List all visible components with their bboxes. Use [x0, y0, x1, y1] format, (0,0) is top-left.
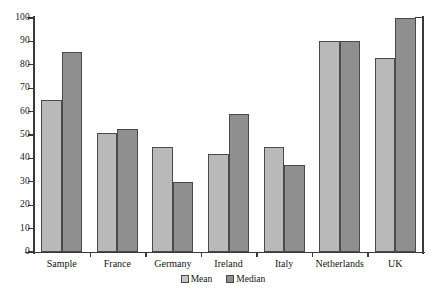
bar-france-median	[117, 129, 138, 252]
y-axis-tick-label: 60	[20, 107, 30, 117]
y-axis-tick-label: 100	[15, 13, 30, 23]
x-axis-tick	[145, 252, 146, 257]
bar-sample-mean	[41, 100, 62, 252]
x-axis-label-sample: Sample	[34, 258, 90, 270]
x-axis-label-france: France	[90, 258, 146, 270]
legend-item-median[interactable]: Median	[226, 274, 265, 284]
bar-ireland-median	[229, 114, 250, 252]
bar-germany-mean	[152, 147, 173, 252]
bar-france-mean	[97, 133, 118, 252]
x-axis-tick	[201, 252, 202, 257]
bar-sample-median	[62, 52, 83, 252]
y-axis-tick-label: 30	[20, 177, 30, 187]
y-axis-tick-label: 70	[20, 83, 30, 93]
x-axis-tick	[367, 252, 368, 257]
legend-label: Mean	[191, 274, 213, 284]
x-axis-tick	[90, 252, 91, 257]
bar-uk-mean	[375, 58, 396, 252]
bar-uk-median	[395, 18, 416, 252]
bar-italy-mean	[264, 147, 285, 252]
x-axis-label-netherlands: Netherlands	[312, 258, 368, 270]
bar-germany-median	[173, 182, 194, 252]
x-axis-tick	[256, 252, 257, 257]
chart-legend: MeanMedian	[0, 274, 446, 284]
bar-netherlands-median	[340, 41, 361, 252]
legend-swatch-icon	[226, 275, 234, 283]
x-axis-label-germany: Germany	[145, 258, 201, 270]
bar-italy-median	[284, 165, 305, 252]
x-axis-tick	[312, 252, 313, 257]
bar-netherlands-mean	[319, 41, 340, 252]
y-axis-tick-label: 20	[20, 200, 30, 210]
y-axis-tick-label: 0	[25, 247, 30, 257]
bar-ireland-mean	[208, 154, 229, 252]
legend-label: Median	[236, 274, 265, 284]
y-axis-tick-label: 10	[20, 224, 30, 234]
y-axis-tick-label: 50	[20, 130, 30, 140]
y-axis-tick-label: 90	[20, 36, 30, 46]
x-axis-label-uk: UK	[367, 258, 423, 270]
bar-chart: 0102030405060708090100 SampleFranceGerma…	[0, 0, 446, 293]
legend-swatch-icon	[181, 275, 189, 283]
x-axis-label-ireland: Ireland	[201, 258, 257, 270]
legend-item-mean[interactable]: Mean	[181, 274, 213, 284]
y-axis-tick-label: 40	[20, 153, 30, 163]
y-axis-tick-label: 80	[20, 60, 30, 70]
x-axis-label-italy: Italy	[256, 258, 312, 270]
plot-area	[34, 18, 423, 252]
